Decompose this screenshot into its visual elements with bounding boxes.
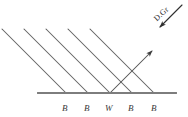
surface-point-label-5: B [151, 104, 157, 113]
surface-point-label-2: B [84, 104, 90, 113]
surface-point-label-3: W [105, 104, 113, 113]
incident-ray-group [2, 29, 154, 93]
surface-point-label-1: B [62, 104, 68, 113]
surface-point-label-4: B [128, 104, 134, 113]
reflected-ray [110, 51, 152, 93]
